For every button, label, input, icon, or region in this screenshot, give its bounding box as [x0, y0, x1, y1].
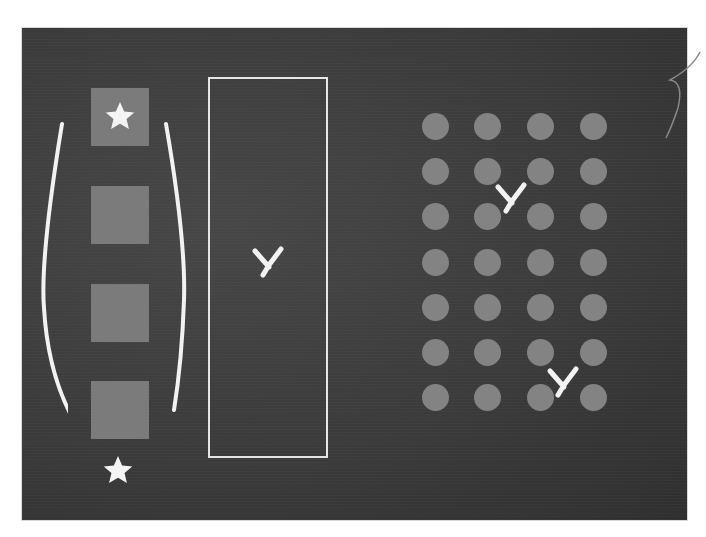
dot — [580, 158, 607, 185]
chalk-scratch — [662, 48, 706, 143]
dot — [474, 384, 501, 411]
x-mark-icon — [494, 181, 528, 215]
dot — [474, 339, 501, 366]
dot — [422, 249, 449, 276]
dot — [580, 294, 607, 321]
left-parenthesis-icon — [38, 118, 68, 433]
dot — [422, 384, 449, 411]
dot — [422, 294, 449, 321]
square-2 — [91, 186, 149, 244]
dot — [422, 158, 449, 185]
dot — [527, 294, 554, 321]
dot — [580, 249, 607, 276]
dot — [422, 339, 449, 366]
dot — [527, 158, 554, 185]
dot — [527, 339, 554, 366]
square-4 — [91, 381, 149, 439]
dot — [474, 294, 501, 321]
dot — [580, 384, 607, 411]
dot — [580, 113, 607, 140]
square-3 — [91, 284, 149, 342]
dot — [422, 113, 449, 140]
x-mark-icon — [251, 245, 285, 279]
dot — [474, 113, 501, 140]
dot — [580, 203, 607, 230]
dot — [527, 203, 554, 230]
dot — [527, 249, 554, 276]
dot — [580, 339, 607, 366]
dot — [474, 249, 501, 276]
star-icon — [102, 454, 134, 486]
dot — [527, 113, 554, 140]
star-icon — [104, 100, 136, 132]
dot — [422, 203, 449, 230]
x-mark-icon — [546, 365, 580, 399]
right-parenthesis-icon — [162, 120, 192, 415]
square-1 — [91, 88, 149, 146]
